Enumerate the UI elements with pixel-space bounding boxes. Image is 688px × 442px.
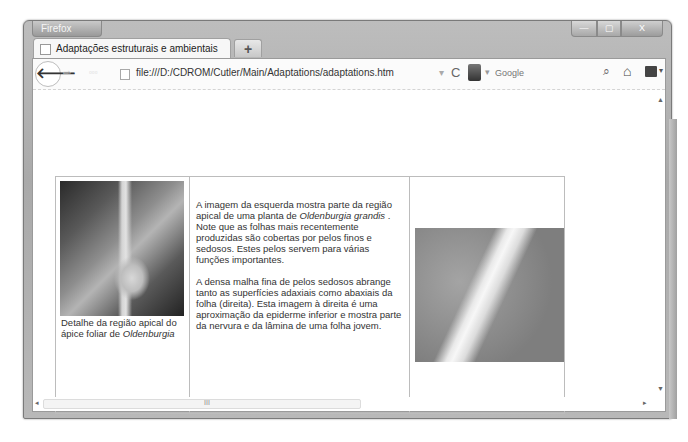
bookmarks-dropdown[interactable]: ▾ bbox=[659, 66, 663, 75]
new-tab-button[interactable]: + bbox=[234, 39, 262, 57]
search-magnifier-icon[interactable]: ⌕ bbox=[603, 64, 610, 78]
window-controls: — ▢ X bbox=[571, 21, 663, 37]
forward-button[interactable]: ⇨ bbox=[63, 67, 71, 78]
browser-window: Firefox — ▢ X Adaptações estruturais e a… bbox=[23, 20, 672, 419]
page-content: Detalhe da região apical do ápice foliar… bbox=[33, 90, 653, 390]
scroll-grip-icon: III bbox=[204, 399, 210, 406]
text-cell: A imagem da esquerda mostra parte da reg… bbox=[190, 177, 410, 414]
forward-arrow-icon: ⇨ bbox=[63, 67, 71, 78]
right-image-cell bbox=[410, 177, 565, 414]
toolbar-ghost-icon: ▫▫▫ bbox=[89, 68, 98, 77]
scroll-left-arrow-icon[interactable]: ◂ bbox=[35, 399, 39, 407]
scroll-up-arrow-icon[interactable]: ▲ bbox=[657, 96, 664, 103]
left-image-cell: Detalhe da região apical do ápice foliar… bbox=[56, 177, 190, 414]
reload-icon[interactable]: C bbox=[451, 65, 460, 80]
horizontal-scroll-thumb[interactable]: III bbox=[43, 399, 361, 409]
maximize-button[interactable]: ▢ bbox=[597, 21, 621, 37]
search-engine-icon[interactable] bbox=[468, 64, 481, 81]
page-favicon-icon bbox=[40, 44, 51, 55]
scroll-down-arrow-icon[interactable]: ▼ bbox=[657, 385, 664, 392]
bookmarks-icon[interactable] bbox=[645, 66, 657, 77]
tab-active[interactable]: Adaptações estruturais e ambientais bbox=[33, 38, 231, 58]
content-table: Detalhe da região apical do ápice foliar… bbox=[55, 176, 565, 414]
horizontal-scrollbar[interactable]: ◂ III ▸ bbox=[33, 397, 653, 411]
caption-species: Oldenburgia bbox=[123, 328, 175, 339]
paragraph-2: A densa malha fina de pelos sedosos abra… bbox=[196, 276, 405, 331]
species-name: Oldenburgia grandis bbox=[300, 210, 386, 221]
minimize-button[interactable]: — bbox=[571, 21, 597, 37]
navigation-toolbar: 🡐 ⇨ ▫▫▫ file:///D:/CDROM/Cutler/Main/Ada… bbox=[33, 59, 665, 90]
leaf-epidermis-image bbox=[415, 228, 564, 362]
back-button[interactable]: 🡐 bbox=[35, 61, 61, 87]
search-engine-dropdown[interactable]: ▾ bbox=[485, 67, 490, 77]
window-edge-rail bbox=[669, 119, 677, 419]
firefox-menu-button[interactable]: Firefox bbox=[32, 21, 102, 37]
home-icon[interactable]: ⌂ bbox=[623, 63, 631, 79]
url-page-icon bbox=[120, 69, 130, 80]
browser-content-frame: 🡐 ⇨ ▫▫▫ file:///D:/CDROM/Cutler/Main/Ada… bbox=[32, 58, 666, 412]
paragraph-1: A imagem da esquerda mostra parte da reg… bbox=[196, 199, 405, 265]
search-input[interactable] bbox=[493, 65, 597, 81]
tab-title: Adaptações estruturais e ambientais bbox=[56, 43, 218, 54]
scroll-right-arrow-icon[interactable]: ▸ bbox=[643, 399, 647, 407]
left-image-caption: Detalhe da região apical do ápice foliar… bbox=[61, 317, 189, 339]
url-history-dropdown[interactable]: ▾ bbox=[439, 67, 444, 78]
url-bar[interactable]: file:///D:/CDROM/Cutler/Main/Adaptations… bbox=[136, 67, 394, 78]
vertical-scrollbar[interactable]: ▲ ▼ bbox=[654, 90, 665, 396]
close-button[interactable]: X bbox=[621, 21, 663, 37]
oldenburgia-apex-image bbox=[60, 181, 184, 316]
